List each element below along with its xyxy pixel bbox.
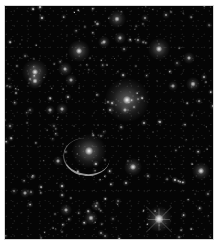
- galaxy: [33, 65, 36, 68]
- galaxy: [178, 236, 181, 239]
- galaxy: [108, 17, 110, 19]
- galaxy: [39, 5, 42, 8]
- galaxy: [70, 197, 72, 199]
- galaxy: [56, 159, 60, 163]
- galaxy: [43, 160, 45, 162]
- galaxy: [166, 178, 169, 181]
- galaxy: [48, 108, 52, 112]
- galaxy: [208, 24, 211, 27]
- galaxy: [33, 79, 38, 84]
- galaxy: [103, 109, 105, 111]
- galaxy: [33, 58, 35, 60]
- galaxy: [179, 180, 182, 183]
- galaxy: [29, 78, 31, 80]
- galaxy: [46, 129, 48, 131]
- galaxy: [181, 229, 183, 231]
- galaxy: [59, 60, 62, 63]
- galaxy: [173, 178, 176, 181]
- galaxy: [40, 237, 42, 239]
- galaxy: [212, 105, 214, 108]
- galaxy: [89, 216, 94, 221]
- galaxy: [62, 88, 64, 90]
- galaxy: [198, 168, 204, 174]
- galaxy: [53, 63, 55, 65]
- galaxy: [5, 140, 8, 143]
- galaxy: [18, 89, 20, 91]
- galaxy: [198, 207, 201, 210]
- galaxy: [205, 81, 207, 83]
- galaxy: [9, 41, 12, 44]
- galaxy: [77, 10, 79, 12]
- galaxy: [183, 123, 186, 126]
- galaxy: [118, 36, 122, 40]
- galaxy: [122, 74, 125, 77]
- galaxy: [64, 208, 68, 212]
- galaxy: [117, 203, 119, 205]
- galaxy: [23, 179, 26, 182]
- galaxy: [60, 185, 63, 188]
- galaxy-halo: [66, 239, 68, 240]
- galaxy: [99, 179, 101, 181]
- galaxy: [203, 76, 206, 79]
- galaxy: [146, 174, 149, 177]
- galaxy: [98, 208, 100, 210]
- galaxy: [204, 6, 206, 8]
- galaxy: [171, 84, 175, 88]
- galaxy: [124, 181, 127, 184]
- galaxy: [155, 155, 157, 157]
- galaxy: [29, 203, 32, 206]
- galaxy: [190, 228, 192, 230]
- galaxy: [143, 122, 146, 125]
- galaxy: [101, 64, 104, 67]
- galaxy: [208, 215, 210, 217]
- galaxy: [187, 199, 189, 201]
- galaxy: [99, 135, 102, 138]
- galaxy: [9, 125, 12, 128]
- galaxy: [104, 235, 107, 238]
- galaxy: [62, 16, 65, 19]
- galaxy: [137, 98, 140, 101]
- galaxy: [4, 119, 6, 121]
- galaxy: [187, 56, 191, 60]
- galaxy: [137, 92, 139, 94]
- galaxy: [133, 106, 135, 108]
- galaxy: [61, 231, 63, 233]
- galaxy: [156, 46, 162, 52]
- galaxy: [130, 99, 133, 102]
- galaxy: [83, 221, 86, 224]
- galaxy: [123, 48, 126, 51]
- galaxy: [198, 99, 201, 102]
- galaxy: [209, 236, 211, 238]
- galaxy: [87, 210, 90, 213]
- galaxy: [75, 29, 78, 32]
- galaxy: [69, 78, 73, 82]
- galaxy: [61, 194, 64, 197]
- galaxy: [120, 126, 123, 129]
- galaxy: [6, 85, 9, 88]
- galaxy: [67, 95, 70, 98]
- galaxy: [15, 92, 17, 94]
- galaxy: [182, 213, 185, 216]
- galaxy: [197, 150, 200, 153]
- galaxy: [10, 137, 13, 140]
- galaxy: [104, 176, 106, 178]
- galaxy: [89, 58, 91, 60]
- galaxy: [206, 148, 208, 150]
- galaxy: [115, 17, 120, 22]
- galaxy: [76, 48, 82, 54]
- galaxy: [55, 228, 57, 230]
- galaxy: [145, 74, 148, 77]
- galaxy: [178, 47, 180, 49]
- galaxy: [96, 202, 98, 204]
- galaxy: [117, 71, 119, 73]
- galaxy: [27, 122, 29, 124]
- galaxy: [185, 139, 187, 141]
- galaxy: [135, 65, 137, 67]
- galaxy: [44, 232, 46, 234]
- galaxy: [35, 45, 37, 47]
- galaxy: [108, 170, 111, 173]
- galaxy: [25, 111, 28, 114]
- galaxy: [67, 54, 68, 55]
- galaxy: [109, 109, 112, 112]
- galaxy: [40, 186, 43, 189]
